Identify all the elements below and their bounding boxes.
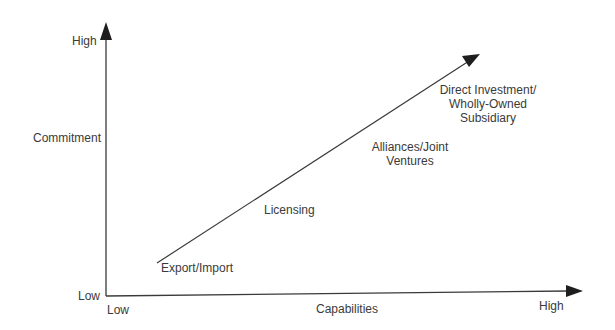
stage-direct-line-1: Direct Investment/ bbox=[428, 83, 548, 97]
y-axis-low-label: Low bbox=[78, 289, 100, 303]
y-axis bbox=[100, 22, 112, 296]
stage-licensing: Licensing bbox=[264, 203, 315, 217]
progression-arrowhead-icon bbox=[462, 54, 480, 67]
stage-alliances-line-2: Ventures bbox=[355, 154, 465, 168]
y-axis-title: Commitment bbox=[33, 131, 101, 145]
stage-direct-investment: Direct Investment/ Wholly-Owned Subsidia… bbox=[428, 83, 548, 125]
y-axis-arrow-icon bbox=[100, 22, 112, 40]
x-axis-low-label: Low bbox=[107, 303, 129, 317]
stage-alliances-joint-ventures: Alliances/Joint Ventures bbox=[355, 140, 465, 168]
x-axis bbox=[106, 285, 583, 297]
stage-export-import: Export/Import bbox=[161, 261, 233, 275]
x-axis-arrow-icon bbox=[566, 285, 583, 297]
diagram-canvas bbox=[0, 0, 615, 330]
x-axis-high-label: High bbox=[539, 299, 564, 313]
stage-direct-line-2: Wholly-Owned bbox=[428, 97, 548, 111]
stage-alliances-line-1: Alliances/Joint bbox=[355, 140, 465, 154]
x-axis-title: Capabilities bbox=[316, 302, 378, 316]
stage-direct-line-3: Subsidiary bbox=[428, 111, 548, 125]
y-axis-high-label: High bbox=[72, 34, 97, 48]
